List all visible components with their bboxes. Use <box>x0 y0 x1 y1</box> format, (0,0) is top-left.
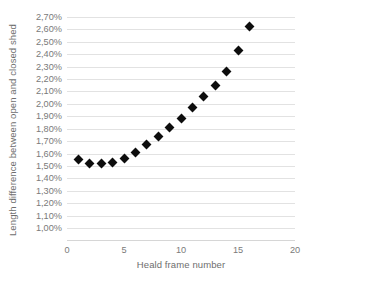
data-point <box>199 91 209 101</box>
x-axis-title: Heald frame number <box>67 259 295 270</box>
gridline <box>67 42 295 43</box>
y-axis-tick-label: 2,70% <box>22 11 62 23</box>
data-point <box>73 155 83 165</box>
gridline <box>67 129 295 130</box>
scatter-chart: Length difference between open and close… <box>0 0 375 301</box>
plot-area <box>67 17 295 228</box>
data-point <box>153 131 163 141</box>
gridline <box>67 29 295 30</box>
y-axis-tick-label: 2,30% <box>22 61 62 73</box>
x-axis-line <box>67 240 295 241</box>
gridline <box>67 203 295 204</box>
x-axis-tick-label: 5 <box>104 243 144 257</box>
y-axis-tick-label: 1,30% <box>22 185 62 197</box>
y-axis-tick-label: 1,90% <box>22 110 62 122</box>
data-point <box>210 80 220 90</box>
gridline <box>67 178 295 179</box>
y-axis-tick-label: 2,10% <box>22 85 62 97</box>
x-axis-tick-label: 20 <box>275 243 315 257</box>
y-axis-tick-label: 1,10% <box>22 210 62 222</box>
y-axis-title: Length difference between open and close… <box>6 10 20 250</box>
gridline <box>67 104 295 105</box>
y-axis-tick-label: 1,20% <box>22 197 62 209</box>
x-axis-tick-label: 0 <box>47 243 87 257</box>
y-axis-tick-label: 1,00% <box>22 222 62 234</box>
gridline <box>67 216 295 217</box>
x-axis-tick-labels: 05101520 <box>67 243 295 257</box>
y-axis-tick-label: 2,60% <box>22 23 62 35</box>
gridline <box>67 154 295 155</box>
x-axis-tick-label: 15 <box>218 243 258 257</box>
gridline <box>67 17 295 18</box>
gridline <box>67 141 295 142</box>
y-axis-tick-label: 1,40% <box>22 172 62 184</box>
data-point <box>130 147 140 157</box>
gridline <box>67 79 295 80</box>
y-axis-tick-label: 2,20% <box>22 73 62 85</box>
y-axis-tick-label: 2,40% <box>22 48 62 60</box>
gridline <box>67 91 295 92</box>
y-axis-tick-label: 1,80% <box>22 123 62 135</box>
y-axis-tick-label: 1,50% <box>22 160 62 172</box>
data-point <box>165 123 175 133</box>
y-axis-tick-labels: 2,70%2,60%2,50%2,40%2,30%2,20%2,10%2,00%… <box>22 11 62 233</box>
y-axis-tick-label: 1,60% <box>22 148 62 160</box>
gridline <box>67 67 295 68</box>
data-point <box>119 154 129 164</box>
y-axis-tick-label: 1,70% <box>22 135 62 147</box>
data-point <box>222 67 232 77</box>
y-axis-tick-label: 2,50% <box>22 36 62 48</box>
gridline <box>67 228 295 229</box>
gridline <box>67 54 295 55</box>
x-axis-tick-label: 10 <box>161 243 201 257</box>
gridline <box>67 191 295 192</box>
y-axis-tick-label: 2,00% <box>22 98 62 110</box>
